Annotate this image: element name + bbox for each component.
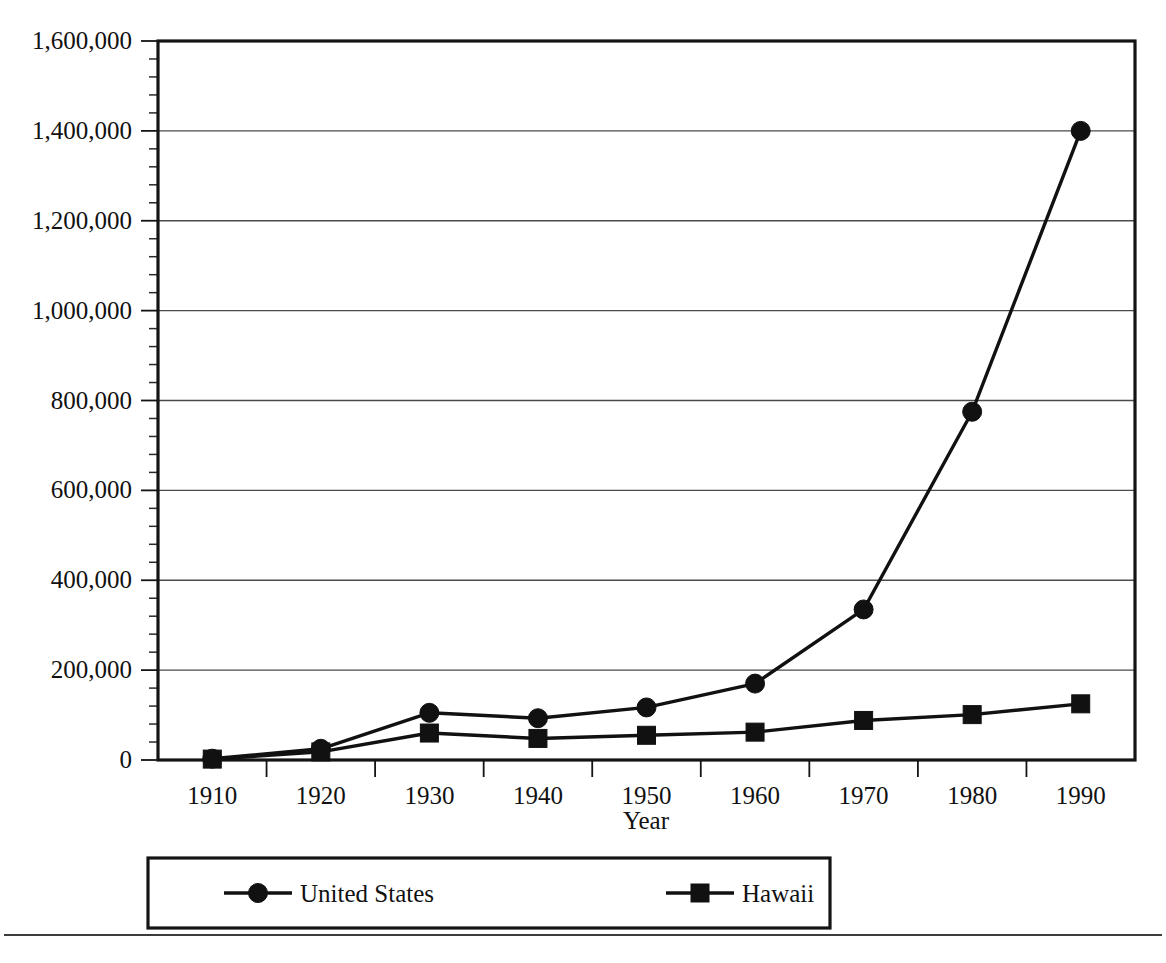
data-point-marker xyxy=(963,706,981,724)
legend-marker-square xyxy=(691,884,709,902)
legend-marker-circle xyxy=(249,884,268,903)
line-chart: 0200,000400,000600,000800,0001,000,0001,… xyxy=(0,0,1166,963)
figure-container: 0200,000400,000600,000800,0001,000,0001,… xyxy=(0,0,1166,963)
y-axis-tick-label: 1,000,000 xyxy=(32,297,132,324)
x-axis-ticks xyxy=(267,760,1027,777)
y-axis-tick-label: 200,000 xyxy=(51,656,132,683)
data-point-marker xyxy=(1072,695,1090,713)
gridlines xyxy=(158,131,1135,670)
x-axis-tick-label: 1970 xyxy=(839,782,889,809)
data-point-marker xyxy=(746,674,765,693)
data-point-marker xyxy=(529,729,547,747)
data-point-marker xyxy=(637,698,656,717)
data-point-marker xyxy=(1071,121,1090,140)
x-axis-tick-label: 1980 xyxy=(947,782,997,809)
data-point-marker xyxy=(638,726,656,744)
y-axis-tick-labels: 0200,000400,000600,000800,0001,000,0001,… xyxy=(32,27,132,773)
data-point-marker xyxy=(854,600,873,619)
y-axis-tick-label: 600,000 xyxy=(51,476,132,503)
y-axis-tick-label: 1,600,000 xyxy=(32,27,132,54)
y-axis-tick-label: 1,400,000 xyxy=(32,117,132,144)
x-axis-tick-label: 1920 xyxy=(296,782,346,809)
data-point-marker xyxy=(855,711,873,729)
x-axis-tick-label: 1930 xyxy=(404,782,454,809)
x-axis-tick-label: 1950 xyxy=(622,782,672,809)
x-axis-tick-label: 1990 xyxy=(1056,782,1106,809)
series-line xyxy=(212,131,1080,759)
y-axis-tick-label: 1,200,000 xyxy=(32,207,132,234)
x-axis-tick-label: 1940 xyxy=(513,782,563,809)
data-point-marker xyxy=(203,750,221,768)
x-axis-tick-labels: 191019201930194019501960197019801990 xyxy=(187,782,1105,809)
series-united-states xyxy=(203,121,1090,768)
y-axis-tick-label: 400,000 xyxy=(51,566,132,593)
x-axis-title: Year xyxy=(623,807,670,834)
data-point-marker xyxy=(420,724,438,742)
data-point-marker xyxy=(312,743,330,761)
data-point-marker xyxy=(746,723,764,741)
data-point-marker xyxy=(963,402,982,421)
x-axis-tick-label: 1910 xyxy=(187,782,237,809)
y-axis-tick-label: 800,000 xyxy=(51,387,132,414)
x-axis-tick-label: 1960 xyxy=(730,782,780,809)
legend-label: Hawaii xyxy=(742,880,814,907)
data-point-marker xyxy=(528,709,547,728)
legend-label: United States xyxy=(300,880,434,907)
data-point-marker xyxy=(420,703,439,722)
y-axis-tick-label: 0 xyxy=(120,746,133,773)
